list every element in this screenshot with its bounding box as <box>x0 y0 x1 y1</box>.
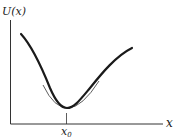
potential-energy-diagram: U(x) x x0 <box>0 0 178 139</box>
x0-label-subscript: 0 <box>67 131 72 139</box>
harmonic-approximation <box>43 81 99 108</box>
y-axis-label: U(x) <box>2 5 26 18</box>
x-axis-label: x <box>166 116 173 130</box>
potential-curve <box>21 34 132 108</box>
x0-label: x0 <box>61 125 72 139</box>
